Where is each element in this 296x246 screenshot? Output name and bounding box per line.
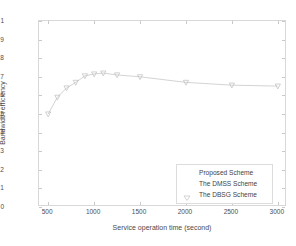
x-tick-mark (94, 202, 95, 205)
x-tick-label: 2000 (178, 208, 192, 215)
y-tick-mark (282, 95, 285, 96)
y-tick-mark (282, 188, 285, 189)
legend-label-proposed-scheme: Proposed Scheme (199, 169, 253, 176)
y-tick-mark (282, 170, 285, 171)
legend-sample-dmss-scheme (177, 178, 199, 189)
y-tick-mark (39, 188, 42, 189)
legend-label-dbsg-scheme: The DBSG Scheme (199, 191, 257, 198)
x-tick-mark (48, 202, 49, 205)
x-tick-mark (94, 21, 95, 24)
y-tick-label: 0.6 (0, 91, 4, 98)
x-tick-mark (232, 21, 233, 24)
x-tick-label: 3000 (270, 208, 284, 215)
y-tick-mark (39, 151, 42, 152)
x-tick-mark (140, 202, 141, 205)
y-tick-label: 0.7 (0, 72, 4, 79)
y-tick-mark (39, 58, 42, 59)
y-tick-mark (39, 133, 42, 134)
y-tick-label: 0 (0, 203, 4, 210)
y-tick-mark (282, 21, 285, 22)
y-tick-mark (39, 114, 42, 115)
y-tick-mark (282, 207, 285, 208)
y-tick-mark (282, 77, 285, 78)
y-tick-mark (39, 40, 42, 41)
x-tick-mark (186, 21, 187, 24)
y-tick-label: 0.8 (0, 54, 4, 61)
legend-item-dbsg-scheme: The DBSG Scheme (177, 189, 272, 200)
y-tick-label: 0.5 (0, 110, 4, 117)
y-tick-label: 0.2 (0, 165, 4, 172)
x-tick-mark (48, 21, 49, 24)
x-tick-label: 1500 (132, 208, 146, 215)
x-tick-label: 500 (42, 208, 53, 215)
legend-sample-dbsg-scheme (177, 189, 199, 200)
x-axis-title: Service operation time (second) (113, 224, 212, 231)
y-tick-mark (282, 58, 285, 59)
y-tick-label: 0.9 (0, 35, 4, 42)
x-tick-label: 2500 (224, 208, 238, 215)
legend-label-dmss-scheme: The DMSS Scheme (199, 180, 257, 187)
y-tick-mark (39, 77, 42, 78)
y-tick-label: 0.3 (0, 147, 4, 154)
x-tick-mark (140, 21, 141, 24)
chart-figure: Bandwidth efficiency Service operation t… (0, 0, 296, 246)
y-tick-label: 0.1 (0, 184, 4, 191)
y-tick-mark (282, 40, 285, 41)
y-tick-label: 1 (0, 17, 4, 24)
y-tick-mark (39, 207, 42, 208)
legend: Proposed Scheme The DMSS Scheme The DBSG… (176, 164, 273, 204)
y-tick-mark (39, 21, 42, 22)
y-tick-mark (282, 133, 285, 134)
data-point-marker (275, 84, 280, 89)
x-tick-label: 1000 (86, 208, 100, 215)
y-tick-mark (39, 170, 42, 171)
triangle-down-marker-icon (177, 192, 199, 203)
y-tick-mark (282, 114, 285, 115)
y-tick-label: 0.4 (0, 128, 4, 135)
x-tick-mark (278, 202, 279, 205)
x-tick-mark (278, 21, 279, 24)
legend-item-dmss-scheme: The DMSS Scheme (177, 178, 272, 189)
data-point-marker (46, 112, 51, 117)
y-tick-mark (39, 95, 42, 96)
legend-sample-proposed-scheme (177, 167, 199, 178)
series-line (48, 73, 278, 114)
y-tick-mark (282, 151, 285, 152)
legend-item-proposed-scheme: Proposed Scheme (177, 167, 272, 178)
